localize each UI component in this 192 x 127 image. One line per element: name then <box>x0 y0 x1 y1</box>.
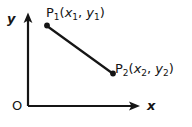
point-label-p2-y-index: 2 <box>163 68 169 78</box>
point-label-p2-index: 2 <box>123 68 129 78</box>
point-marker-p1 <box>44 23 50 29</box>
point-label-p2-y-var: y <box>155 61 163 76</box>
y-axis-label: y <box>7 12 15 25</box>
point-label-p2: P2(x2, y2) <box>115 62 174 75</box>
point-label-p1-y-index: 1 <box>94 12 100 22</box>
point-label-p2-x-index: 2 <box>141 68 147 78</box>
point-label-p1-x-index: 1 <box>72 12 78 22</box>
math-diagram: y x O P1(x1, y1) P2(x2, y2) <box>0 0 192 127</box>
point-label-p1-prefix: P <box>46 5 54 20</box>
point-label-p1-index: 1 <box>54 12 60 22</box>
segment-p1-p2 <box>47 26 112 73</box>
point-label-p2-prefix: P <box>115 61 123 76</box>
point-label-p1: P1(x1, y1) <box>46 6 105 19</box>
x-axis-label: x <box>147 99 155 112</box>
origin-label: O <box>12 99 22 112</box>
point-label-p1-y-var: y <box>86 5 94 20</box>
